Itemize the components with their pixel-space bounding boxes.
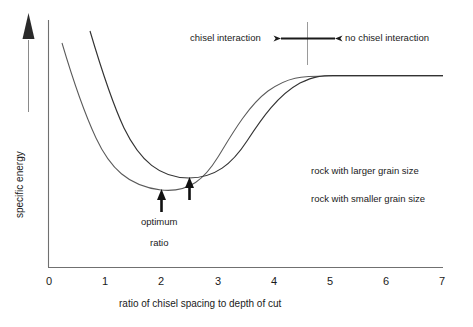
x-tick-2: 2 — [151, 275, 171, 287]
optimum-ratio-arrow-large-grain — [185, 177, 194, 200]
curve-larger-grain — [90, 31, 443, 178]
x-tick-1: 1 — [95, 275, 115, 287]
x-tick-0: 0 — [39, 275, 59, 287]
x-tick-3: 3 — [208, 275, 228, 287]
x-tick-6: 6 — [376, 275, 396, 287]
annotation-optimum-line1: optimum — [141, 216, 177, 227]
annotation-chisel-interaction: chisel interaction — [190, 32, 261, 43]
annotation-curve-smaller-grain: rock with smaller grain size — [311, 193, 425, 204]
y-axis-label: specific energy — [14, 151, 25, 218]
annotation-no-chisel-interaction: no chisel interaction — [345, 32, 429, 43]
x-tick-4: 4 — [264, 275, 284, 287]
annotation-curve-larger-grain: rock with larger grain size — [311, 165, 419, 176]
x-tick-7: 7 — [432, 275, 452, 287]
chart-vector-layer — [0, 0, 473, 327]
optimum-ratio-arrow-small-grain — [157, 189, 166, 212]
figure-canvas: specific energy 0 1 2 3 4 5 6 7 ratio of… — [0, 0, 473, 327]
up-arrow-icon — [23, 13, 35, 112]
x-axis-label: ratio of chisel spacing to depth of cut — [119, 298, 281, 309]
x-tick-5: 5 — [320, 275, 340, 287]
annotation-optimum-line2: ratio — [150, 237, 168, 248]
